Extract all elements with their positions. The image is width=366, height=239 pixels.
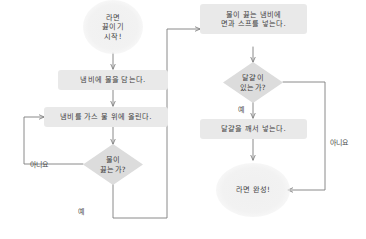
node-has-egg-line-1: 달걀이 bbox=[223, 73, 283, 82]
node-add-egg-process: 달걀을 깨서 넣는다. bbox=[200, 119, 307, 139]
node-start-terminal: 라면 끓이기 시작! bbox=[83, 0, 143, 54]
node-start-line-3: 시작! bbox=[104, 32, 121, 41]
node-add-egg-label: 달걀을 깨서 넣는다. bbox=[221, 124, 286, 133]
node-add-noodles-process: 물이 끓는 냄비에 면과 스프를 넣는다. bbox=[200, 4, 307, 34]
flowchart-canvas: 라면 끓이기 시작! 냄비에 물을 담는다. 냄비를 가스 불 위에 올린다. … bbox=[0, 0, 366, 239]
node-start-line-1: 라면 bbox=[106, 13, 120, 22]
edge-label-boiling-yes: 예 bbox=[78, 206, 84, 216]
node-is-boiling-text: 물이 끓는가? bbox=[83, 155, 143, 173]
node-done-label: 라면 완성! bbox=[236, 185, 270, 194]
edge-label-boiling-no: 아니요 bbox=[30, 159, 49, 169]
node-has-egg-text: 달걀이 있는가? bbox=[223, 73, 283, 91]
node-is-boiling-decision: 물이 끓는가? bbox=[83, 144, 143, 185]
node-is-boiling-line-1: 물이 bbox=[83, 155, 143, 164]
node-fill-water-label: 냄비에 물을 담는다. bbox=[80, 75, 145, 84]
edge-label-egg-no: 아니요 bbox=[330, 137, 349, 147]
node-has-egg-line-2: 있는가? bbox=[223, 83, 283, 92]
edge-label-egg-yes: 예 bbox=[238, 104, 244, 114]
node-done-terminal: 라면 완성! bbox=[216, 163, 290, 217]
node-start-line-2: 끓이기 bbox=[102, 22, 124, 31]
node-has-egg-decision: 달걀이 있는가? bbox=[223, 62, 283, 103]
node-is-boiling-line-2: 끓는가? bbox=[83, 165, 143, 174]
node-put-on-stove-label: 냄비를 가스 불 위에 올린다. bbox=[60, 112, 152, 121]
node-fill-water-process: 냄비에 물을 담는다. bbox=[58, 70, 168, 90]
node-put-on-stove-process: 냄비를 가스 불 위에 올린다. bbox=[44, 107, 168, 127]
node-add-noodles-line-1: 물이 끓는 냄비에 bbox=[226, 10, 281, 19]
node-add-noodles-line-2: 면과 스프를 넣는다. bbox=[221, 19, 286, 28]
